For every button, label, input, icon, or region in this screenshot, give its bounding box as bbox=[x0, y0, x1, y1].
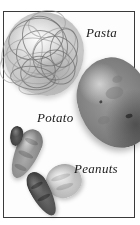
potato-blemish bbox=[112, 75, 123, 84]
potato-blemish bbox=[97, 115, 111, 126]
label-peanuts: Peanuts bbox=[74, 161, 118, 177]
shell-ridge bbox=[24, 137, 39, 147]
potato-eye bbox=[99, 100, 103, 104]
label-pasta: Pasta bbox=[86, 25, 117, 41]
shell-ridge bbox=[17, 149, 34, 160]
potato-blemish bbox=[104, 85, 124, 101]
shell-ridge bbox=[37, 192, 51, 202]
food-photo-plate: Pasta Potato Peanuts bbox=[0, 0, 140, 225]
shell-ridge bbox=[55, 181, 74, 191]
shell-ridge bbox=[30, 181, 43, 191]
shell-ridge bbox=[50, 172, 71, 183]
shell-ridge bbox=[14, 163, 28, 173]
label-potato: Potato bbox=[37, 110, 73, 126]
potato-eye bbox=[125, 113, 133, 119]
